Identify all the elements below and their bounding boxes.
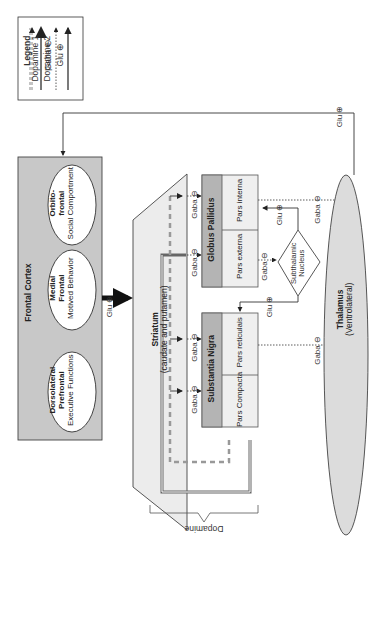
legend-item-dopamine1: Dopamine 1 (31, 19, 40, 99)
region-medial-frontal: Medial Frontal Motived Behavior (49, 248, 75, 328)
glu-label-stn-gpi: Glu ⊕ (276, 194, 285, 234)
gaba-label-stn: Gaba ⊖ (261, 246, 270, 286)
gaba-label-snc: Gaba ⊖ (191, 379, 200, 419)
gaba-label-gpi: Gaba ⊖ (191, 184, 200, 224)
legend-item-glu: Glu ⊕ (56, 25, 65, 85)
thalamus-label: Thalamus (Ventrolateral) (336, 264, 355, 354)
striatum-label: Striatum (caudate and putamen) (151, 269, 170, 389)
region-orbitofrontal: Orbito- frontal Social Comportment (49, 163, 75, 243)
glu-label-cortex: Glu ⊕ (106, 286, 115, 326)
frontal-cortex-title: Frontal Cortex (24, 243, 33, 343)
gaba-label-snr: Gaba ⊖ (191, 327, 200, 367)
gaba-label-gpi-thalamus: Gaba ⊖ (314, 189, 323, 229)
subthalamic-label: Subthalamic Nucleus (290, 238, 307, 288)
globus-pallidus-title: Globus Pallidus (207, 180, 216, 280)
legend-item-gaba: Gaba ⊖ (44, 25, 53, 85)
pars-interna: Pars interna (236, 175, 245, 225)
gaba-label-snr-thalamus: Gaba ⊖ (314, 330, 323, 370)
pars-reticulata: Pars reticulais (236, 312, 245, 372)
glu-label-thalamus: Glu ⊕ (336, 96, 345, 136)
dopamine-label: Dopamine (174, 524, 234, 534)
pars-compacta: Pars Compacta (236, 369, 245, 429)
substantia-nigra-title: Substantia Nigra (207, 319, 216, 419)
region-dorsolateral: Dorsolateral Prefrontal Executive Functi… (49, 350, 75, 430)
gaba-label-gpe: Gaba ⊖ (191, 242, 200, 282)
glu-label-stn-sn: Glu ⊕ (266, 286, 275, 326)
pars-externa: Pars externa (236, 231, 245, 281)
